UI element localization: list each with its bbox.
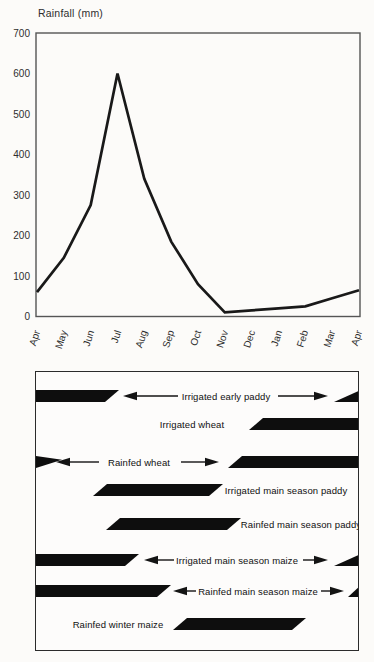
y-tick-label: 700	[2, 28, 30, 39]
y-tick-label: 0	[2, 311, 30, 322]
crop-label: Irrigated main season maize	[176, 555, 298, 566]
arrow-head	[330, 587, 344, 595]
crop-bar	[348, 585, 359, 597]
crop-bar	[36, 554, 139, 566]
y-tick-label: 100	[2, 271, 30, 282]
crop-bar	[93, 484, 223, 496]
wrap-arrow-left-icon	[123, 391, 178, 401]
crop-bar	[334, 390, 359, 402]
arrow-head	[144, 556, 158, 564]
crop-bar	[249, 418, 359, 430]
crop-label: Rainfed winter maize	[73, 619, 164, 630]
arrow-head	[56, 458, 70, 466]
arrow-head	[173, 587, 187, 595]
crop-label: Rainfed wheat	[108, 457, 170, 468]
wrap-arrow-right-icon	[303, 555, 328, 565]
crop-label: Irrigated main season paddy	[225, 485, 348, 496]
crop-bar	[228, 456, 359, 468]
y-tick-label: 600	[2, 68, 30, 79]
crop-bar	[106, 518, 241, 530]
crop-bar	[173, 618, 306, 630]
y-tick-label: 400	[2, 149, 30, 160]
wrap-arrow-right-icon	[321, 586, 344, 596]
y-tick-label: 500	[2, 109, 30, 120]
chart-frame	[36, 33, 360, 317]
figure-page: Rainfall (mm) 0100200300400500600700AprM…	[0, 0, 374, 662]
arrow-head	[314, 556, 328, 564]
crop-bar	[36, 585, 171, 597]
wrap-arrow-right-icon	[278, 391, 328, 401]
wrap-arrow-left-icon	[56, 457, 99, 467]
arrow-head	[123, 392, 137, 400]
wrap-arrow-left-icon	[173, 586, 196, 596]
crop-bar	[36, 390, 119, 402]
wrap-arrow-left-icon	[144, 555, 174, 565]
crop-calendar-panel: Irrigated early paddyIrrigated wheatRain…	[35, 371, 359, 651]
crop-bar	[334, 554, 359, 566]
y-tick-label: 200	[2, 230, 30, 241]
crop-label: Irrigated wheat	[160, 419, 224, 430]
arrow-head	[314, 392, 328, 400]
arrow-head	[205, 458, 219, 466]
wrap-arrow-right-icon	[181, 457, 219, 467]
rainfall-line	[37, 74, 359, 313]
crop-label: Rainfed main season maize	[198, 586, 318, 597]
y-tick-label: 300	[2, 190, 30, 201]
crop-label: Rainfed main season paddy	[241, 519, 359, 530]
crop-label: Irrigated early paddy	[182, 391, 271, 402]
